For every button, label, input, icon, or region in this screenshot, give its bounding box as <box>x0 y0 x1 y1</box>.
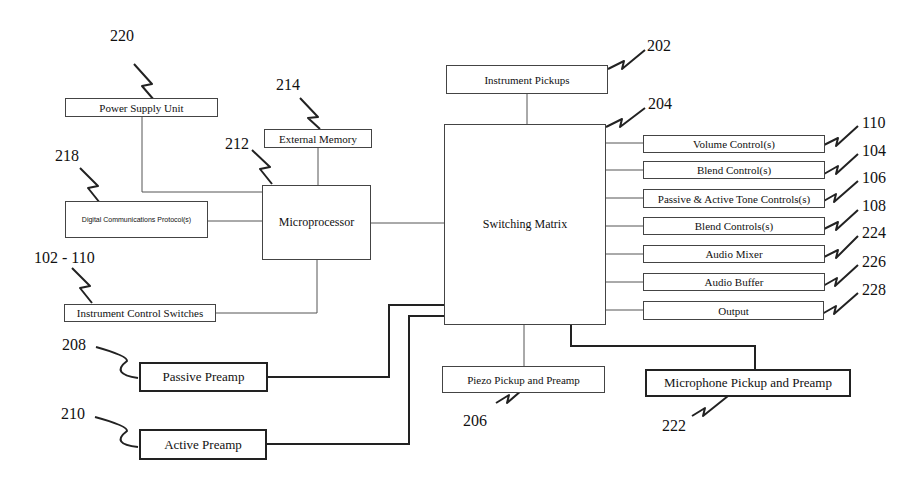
ref-label-104: 104 <box>862 143 886 159</box>
ref-label-226: 226 <box>862 254 886 270</box>
tone-controls-block: Passive & Active Tone Controls(s) <box>643 189 825 208</box>
ref-label-106: 106 <box>862 170 886 186</box>
ref-leader-106 <box>822 181 858 202</box>
ref-leader-228 <box>822 293 858 314</box>
ref-leader-218 <box>80 168 100 203</box>
ref-leader-222 <box>692 396 728 416</box>
instrument-control-switches-block: Instrument Control Switches <box>64 304 216 322</box>
ref-leader-220 <box>134 64 154 100</box>
ref-label-108: 108 <box>862 198 886 214</box>
ref-label-208: 208 <box>62 337 86 353</box>
microphone-pickup-block: Microphone Pickup and Preamp <box>645 369 851 397</box>
ref-leader-208 <box>96 347 138 378</box>
blend-controls-block: Blend Controls(s) <box>643 217 825 235</box>
ref-leader-212 <box>252 150 272 184</box>
ref-leader-104 <box>824 154 858 174</box>
volume-controls-block: Volume Control(s) <box>643 135 825 153</box>
active-preamp-block: Active Preamp <box>139 429 267 460</box>
ref-leader-210 <box>95 417 138 447</box>
ref-leader-224 <box>824 236 858 258</box>
ref-label-228: 228 <box>862 282 886 298</box>
ref-leader-102-110 <box>72 268 92 303</box>
ref-label-220: 220 <box>110 28 134 44</box>
ref-label-218: 218 <box>55 148 79 164</box>
passive-preamp-block: Passive Preamp <box>139 362 268 392</box>
ref-leader-214 <box>300 98 320 129</box>
switching-matrix-block: Switching Matrix <box>444 124 606 325</box>
blend-control-block: Blend Control(s) <box>643 161 825 179</box>
ref-label-222: 222 <box>662 418 686 434</box>
piezo-pickup-block: Piezo Pickup and Preamp <box>442 366 605 393</box>
ref-label-102-110: 102 - 110 <box>34 250 95 266</box>
ref-leader-202 <box>608 50 645 69</box>
ref-label-214: 214 <box>276 77 300 93</box>
ref-leader-204 <box>606 108 645 127</box>
microprocessor-block: Microprocessor <box>262 185 371 260</box>
ref-label-212: 212 <box>225 136 249 152</box>
instrument-pickups-block: Instrument Pickups <box>446 65 608 94</box>
audio-buffer-block: Audio Buffer <box>643 273 825 291</box>
ref-label-206: 206 <box>463 413 487 429</box>
ref-label-110: 110 <box>862 115 885 131</box>
ref-label-204: 204 <box>648 96 672 112</box>
digital-communications-block: Digital Communications Protocol(s) <box>65 201 208 238</box>
audio-mixer-block: Audio Mixer <box>643 245 825 263</box>
external-memory-block: External Memory <box>264 129 372 148</box>
ref-label-202: 202 <box>647 38 671 54</box>
ref-leader-226 <box>823 265 858 286</box>
ref-label-210: 210 <box>61 406 85 422</box>
ref-label-224: 224 <box>862 225 886 241</box>
output-block: Output <box>643 301 824 320</box>
ref-leader-110 <box>824 126 858 146</box>
ref-leader-108 <box>824 210 858 230</box>
power-supply-unit-block: Power Supply Unit <box>65 98 218 117</box>
